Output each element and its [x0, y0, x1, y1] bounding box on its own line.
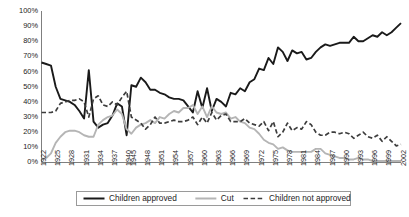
x-tick-label: 1987: [328, 150, 337, 166]
y-axis-tick-labels: 0%10%20%30%40%50%60%70%80%90%100%: [19, 6, 38, 167]
y-tick-label: 0%: [27, 157, 38, 166]
x-tick-label: 1925: [53, 150, 62, 166]
y-tick-label: 40%: [23, 97, 38, 106]
x-tick-label: 1978: [285, 150, 294, 166]
x-tick-label: 1928: [67, 150, 76, 166]
x-tick-label: 1981: [299, 150, 308, 166]
x-tick-label: 1975: [271, 150, 280, 166]
line-chart: 0%10%20%30%40%50%60%70%80%90%100% 192219…: [0, 0, 409, 217]
x-tick-label: 1951: [157, 150, 166, 166]
x-tick-label: 1996: [370, 150, 379, 166]
x-tick-label: 1993: [356, 150, 365, 166]
x-tick-label: 1984: [313, 150, 322, 166]
x-tick-label: 1954: [171, 150, 180, 166]
y-tick-label: 10%: [23, 142, 38, 151]
legend-label-1: Cut: [221, 193, 235, 203]
y-tick-label: 80%: [23, 36, 38, 45]
x-tick-label: 1922: [39, 150, 48, 166]
x-axis-tick-labels: 1922192519281931193419371940194519481951…: [39, 150, 408, 166]
legend-label-0: Children approved: [109, 193, 177, 203]
x-tick-label: 1966: [228, 150, 237, 166]
x-tick-label: 1934: [96, 150, 105, 166]
x-tick-label: 1990: [342, 150, 351, 166]
x-tick-label: 1999: [384, 150, 393, 166]
x-tick-label: 2002: [399, 150, 408, 166]
x-tick-label: 1931: [82, 150, 91, 166]
x-tick-label: 1969: [242, 150, 251, 166]
x-tick-label: 1945: [129, 150, 138, 166]
x-tick-label: 1960: [200, 150, 209, 166]
y-tick-label: 70%: [23, 51, 38, 60]
series-line-0: [42, 23, 402, 135]
legend-label-2: Children not approved: [269, 193, 351, 203]
y-tick-label: 50%: [23, 82, 38, 91]
y-tick-label: 90%: [23, 21, 38, 30]
x-tick-label: 1957: [186, 150, 195, 166]
y-tick-label: 60%: [23, 67, 38, 76]
y-tick-label: 30%: [23, 112, 38, 121]
y-tick-label: 20%: [23, 127, 38, 136]
x-tick-label: 1948: [143, 150, 152, 166]
chart-canvas: 0%10%20%30%40%50%60%70%80%90%100% 192219…: [0, 0, 409, 217]
x-tick-label: 1963: [214, 150, 223, 166]
chart-legend: Children approvedCutChildren not approve…: [77, 192, 352, 206]
x-tick-label: 1937: [110, 150, 119, 166]
x-tick-label: 1972: [257, 150, 266, 166]
data-series-group: [42, 23, 402, 161]
y-tick-label: 100%: [19, 6, 38, 15]
series-line-2: [42, 91, 402, 146]
